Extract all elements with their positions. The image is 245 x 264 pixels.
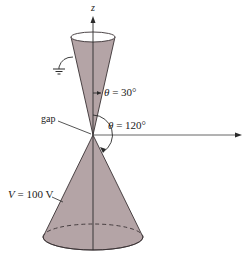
theta-30-label: θ = 30°: [104, 87, 137, 98]
horizontal-axis: [93, 133, 242, 138]
potential-label: V = 100 V: [8, 189, 53, 200]
horizontal-axis-arrowhead-icon: [235, 133, 242, 138]
theta-120-label: θ = 120°: [108, 120, 146, 131]
theta-120-value: = 120°: [113, 119, 146, 131]
gap-leader-line: [58, 121, 91, 134]
ground-icon: [53, 57, 73, 74]
z-axis-arrowhead-icon: [91, 16, 96, 23]
z-axis-label: z: [91, 3, 95, 13]
potential-value: = 100 V: [15, 188, 54, 200]
theta-30-value: = 30°: [109, 86, 136, 98]
potential-symbol: V: [8, 188, 15, 200]
gap-label: gap: [41, 114, 55, 124]
figure-drawing: [0, 0, 245, 264]
conical-capacitor-figure: z θ = 30° θ = 120° gap V = 100 V: [0, 0, 245, 264]
